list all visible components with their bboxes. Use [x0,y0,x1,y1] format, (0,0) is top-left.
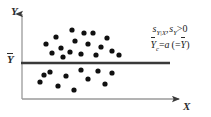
data-point [58,45,63,50]
data-point [85,41,90,46]
data-point [90,30,95,35]
data-point [47,69,52,74]
plot-canvas [0,0,211,117]
data-point [63,73,68,78]
data-point [95,68,100,73]
data-point [85,76,90,81]
data-point [78,51,83,56]
data-point [43,41,48,46]
data-point [37,79,42,84]
x-axis-label: X [183,101,190,112]
data-point [41,72,46,77]
data-point [81,30,86,35]
data-point [78,67,83,72]
data-point [116,52,121,57]
data-point [93,52,98,57]
data-point [98,44,103,49]
data-point [53,34,58,39]
y-axis-label: Y [11,6,18,17]
annotation-line-1: sY|X, sY>0 [131,22,209,38]
data-point [67,49,72,54]
annotation-line-2: Yc=a (=Y) [131,38,209,54]
scatter-points [37,27,121,92]
data-point [109,48,114,53]
data-point [55,83,60,88]
data-point [109,70,114,75]
data-point [69,27,74,32]
scatter-plot-figure: Y X Y sY|X, sY>0 Yc=a (=Y) [0,0,211,117]
data-point [60,54,65,59]
y-mean-tick-label: Y [7,54,14,65]
annotation-block: sY|X, sY>0 Yc=a (=Y) [131,22,209,54]
data-point [49,50,54,55]
data-point [102,81,107,86]
data-point [104,35,109,40]
data-point [72,38,77,43]
data-point [71,87,76,92]
